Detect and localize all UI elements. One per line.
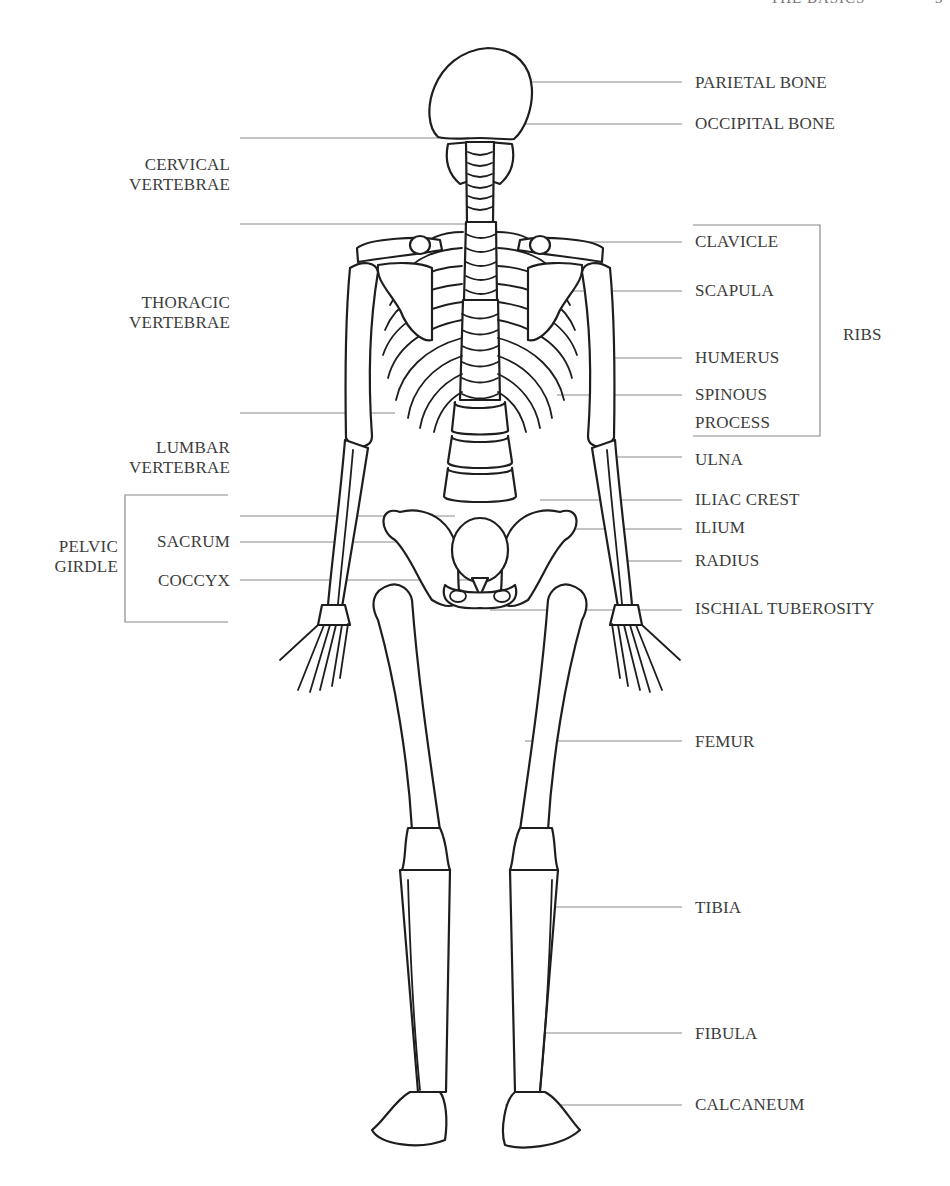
label-fibula: FIBULA	[695, 1024, 758, 1044]
label-ischial-tuberosity: ISCHIAL TUBEROSITY	[695, 599, 875, 619]
label-spinous-process-1: SPINOUS	[695, 385, 767, 405]
left-arm	[280, 263, 378, 692]
label-sacrum: SACRUM	[157, 532, 230, 552]
label-pelvic-girdle: PELVICGIRDLE	[54, 537, 118, 577]
label-line: PELVIC	[54, 537, 118, 557]
label-lumbar-vertebrae: LUMBARVERTEBRAE	[129, 438, 230, 478]
label-occipital-bone: OCCIPITAL BONE	[695, 114, 835, 134]
label-clavicle: CLAVICLE	[695, 232, 778, 252]
label-iliac-crest: ILIAC CREST	[695, 490, 800, 510]
label-line: GIRDLE	[54, 557, 118, 577]
label-spinous-process-2: PROCESS	[695, 413, 770, 433]
label-line: VERTEBRAE	[129, 175, 230, 195]
label-line: COCCYX	[158, 571, 230, 591]
label-line: SACRUM	[157, 532, 230, 552]
label-scapula: SCAPULA	[695, 281, 774, 301]
right-arm	[582, 263, 680, 692]
label-coccyx: COCCYX	[158, 571, 230, 591]
left-leg	[372, 584, 450, 1145]
label-line: CERVICAL	[129, 155, 230, 175]
label-humerus: HUMERUS	[695, 348, 780, 368]
label-line: LUMBAR	[129, 438, 230, 458]
label-radius: RADIUS	[695, 551, 760, 571]
label-femur: FEMUR	[695, 732, 755, 752]
label-line: VERTEBRAE	[129, 313, 230, 333]
label-parietal-bone: PARIETAL BONE	[695, 73, 827, 93]
label-cervical-vertebrae: CERVICALVERTEBRAE	[129, 155, 230, 195]
pelvis	[384, 510, 577, 608]
label-ulna: ULNA	[695, 450, 743, 470]
label-thoracic-vertebrae: THORACICVERTEBRAE	[129, 293, 230, 333]
label-line: VERTEBRAE	[129, 458, 230, 478]
label-calcaneum: CALCANEUM	[695, 1095, 804, 1115]
label-ilium: ILIUM	[695, 518, 745, 538]
label-ribs: RIBS	[843, 325, 882, 345]
label-tibia: TIBIA	[695, 898, 741, 918]
right-leg	[503, 584, 586, 1147]
label-line: THORACIC	[129, 293, 230, 313]
